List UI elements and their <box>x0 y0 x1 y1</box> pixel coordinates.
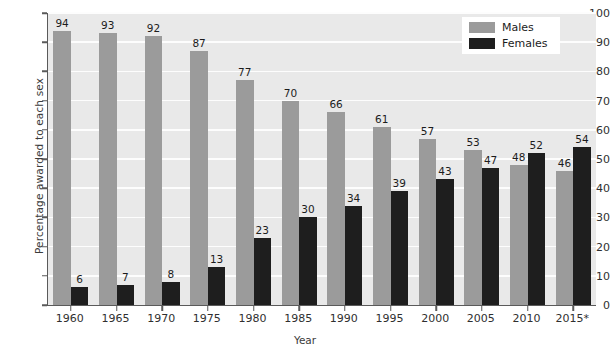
bar-group: 4852 <box>510 13 545 305</box>
bar-males-1960[interactable]: 94 <box>53 31 71 305</box>
legend-label: Males <box>502 22 534 33</box>
bar-females-1970[interactable]: 8 <box>162 282 180 305</box>
bar-group: 5743 <box>419 13 454 305</box>
bar-group: 6634 <box>327 13 362 305</box>
bar-value-label: 52 <box>530 139 543 151</box>
bar-group: 6139 <box>373 13 408 305</box>
bar-value-label: 7 <box>122 271 129 283</box>
legend: MalesFemales <box>462 17 560 54</box>
bar-males-1990[interactable]: 66 <box>327 112 345 305</box>
bar-males-1980[interactable]: 77 <box>236 80 254 305</box>
bar-value-label: 70 <box>284 87 297 99</box>
bar-females-1990[interactable]: 34 <box>345 206 363 305</box>
bar-females-1965[interactable]: 7 <box>117 285 135 305</box>
bar-value-label: 43 <box>438 165 451 177</box>
x-tick-mark <box>527 305 529 311</box>
bar-group: 7030 <box>282 13 317 305</box>
bar-females-2005[interactable]: 47 <box>482 168 500 305</box>
bar-value-label: 92 <box>147 22 160 34</box>
bar-group: 937 <box>99 13 134 305</box>
bar-females-1975[interactable]: 13 <box>208 267 226 305</box>
chart-figure: Percentage awarded to each sex 010203040… <box>0 0 610 356</box>
bar-value-label: 6 <box>76 273 83 285</box>
bar-females-2015[interactable]: 54 <box>573 147 591 305</box>
bar-males-1975[interactable]: 87 <box>190 51 208 305</box>
bar-females-1985[interactable]: 30 <box>299 217 317 305</box>
x-tick-mark <box>70 305 72 311</box>
bar-value-label: 30 <box>301 203 314 215</box>
bar-value-label: 54 <box>575 133 588 145</box>
bar-value-label: 8 <box>168 268 175 280</box>
bar-males-1985[interactable]: 70 <box>282 101 300 305</box>
bar-males-1970[interactable]: 92 <box>145 36 163 305</box>
legend-item-male[interactable]: Males <box>469 22 548 33</box>
bar-value-label: 46 <box>558 157 571 169</box>
legend-swatch-male <box>469 22 495 33</box>
bar-group: 946 <box>53 13 88 305</box>
bar-value-label: 87 <box>192 37 205 49</box>
bar-value-label: 23 <box>256 224 269 236</box>
bar-group: 928 <box>145 13 180 305</box>
x-tick-mark <box>298 305 300 311</box>
bar-females-2010[interactable]: 52 <box>528 153 546 305</box>
bar-females-1995[interactable]: 39 <box>391 191 409 305</box>
bar-value-label: 34 <box>347 192 360 204</box>
x-tick-mark <box>390 305 392 311</box>
legend-item-female[interactable]: Females <box>469 38 548 49</box>
bar-group: 8713 <box>190 13 225 305</box>
bar-value-label: 39 <box>393 177 406 189</box>
bar-males-1995[interactable]: 61 <box>373 127 391 305</box>
legend-label: Females <box>502 38 548 49</box>
bar-group: 5347 <box>464 13 499 305</box>
x-tick-mark <box>116 305 118 311</box>
bar-males-1965[interactable]: 93 <box>99 33 117 305</box>
bar-males-2010[interactable]: 48 <box>510 165 528 305</box>
bar-females-1980[interactable]: 23 <box>254 238 272 305</box>
x-tick-mark <box>481 305 483 311</box>
plot-area: 9469379288713772370306634613957435347485… <box>47 13 596 306</box>
x-tick-mark <box>435 305 437 311</box>
bar-groups: 9469379288713772370306634613957435347485… <box>48 13 596 305</box>
x-tick-label: 2015* <box>542 312 602 325</box>
bar-value-label: 57 <box>421 125 434 137</box>
x-tick-mark <box>344 305 346 311</box>
bar-value-label: 66 <box>329 98 342 110</box>
legend-swatch-female <box>469 38 495 49</box>
bar-group: 4654 <box>556 13 591 305</box>
bar-females-1960[interactable]: 6 <box>71 287 89 305</box>
x-axis-title: Year <box>0 334 610 346</box>
bar-value-label: 61 <box>375 113 388 125</box>
bar-group: 7723 <box>236 13 271 305</box>
bar-value-label: 94 <box>55 17 68 29</box>
bar-males-2015[interactable]: 46 <box>556 171 574 305</box>
bar-males-2005[interactable]: 53 <box>464 150 482 305</box>
y-axis-title: Percentage awarded to each sex <box>33 41 45 291</box>
bar-value-label: 48 <box>512 151 525 163</box>
bar-males-2000[interactable]: 57 <box>419 139 437 305</box>
bar-value-label: 13 <box>210 253 223 265</box>
bar-value-label: 47 <box>484 154 497 166</box>
x-tick-mark <box>253 305 255 311</box>
x-tick-mark <box>572 305 574 311</box>
bar-value-label: 77 <box>238 66 251 78</box>
x-tick-mark <box>161 305 163 311</box>
x-tick-mark <box>207 305 209 311</box>
bar-value-label: 53 <box>466 136 479 148</box>
bar-females-2000[interactable]: 43 <box>436 179 454 305</box>
bar-value-label: 93 <box>101 19 114 31</box>
